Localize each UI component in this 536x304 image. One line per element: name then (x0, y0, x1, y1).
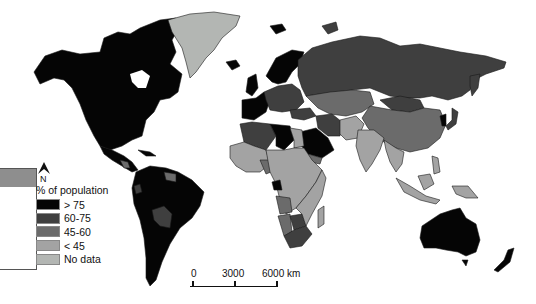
region-svalbard (270, 24, 286, 34)
legend-swatch (36, 254, 60, 265)
region-australia (420, 208, 480, 256)
scale-tick-label: 3000 (222, 268, 244, 279)
region-tasmania (462, 260, 468, 266)
legend-item: > 75 (36, 198, 108, 212)
legend-swatch (36, 226, 60, 237)
legend-item: < 45 (36, 239, 108, 253)
region-uk (246, 74, 258, 96)
legend-label: 60-75 (64, 212, 91, 224)
region-greenland (168, 12, 240, 78)
legend-swatch (36, 199, 60, 210)
side-panel-partial (0, 168, 37, 270)
region-novaya-zemlya (322, 22, 338, 34)
legend-label: No data (64, 253, 101, 265)
region-caribbean (138, 150, 156, 156)
region-turkey (290, 108, 316, 120)
legend-item: No data (36, 252, 108, 266)
region-central-europe (264, 84, 304, 112)
region-gabon (272, 180, 282, 190)
scale-tick-label: 0 (191, 268, 197, 279)
region-north-america (34, 18, 182, 150)
region-new-zealand (494, 248, 514, 272)
region-kamchatka (470, 74, 480, 96)
legend-item: 45-60 (36, 225, 108, 239)
north-label: N (40, 174, 47, 184)
region-iceland (226, 60, 240, 70)
scale-tick-label: 6000 km (262, 268, 300, 279)
legend-label: 45-60 (64, 226, 91, 238)
region-philippines (432, 156, 440, 174)
region-central-america (100, 146, 138, 172)
legend-title: % of population (36, 184, 108, 196)
region-japan (446, 108, 458, 130)
region-india (356, 130, 384, 172)
legend: % of population > 75 60-75 45-60 < 45 No… (36, 184, 108, 266)
region-madagascar (318, 206, 324, 228)
legend-label: < 45 (64, 240, 85, 252)
region-papua (452, 186, 478, 198)
legend-item: 60-75 (36, 212, 108, 226)
side-panel-header (0, 169, 36, 187)
legend-swatch (36, 240, 60, 251)
legend-swatch (36, 213, 60, 224)
scale-bar: 0 3000 6000 km (190, 268, 276, 287)
scale-line (190, 280, 276, 287)
region-borneo (418, 174, 434, 190)
region-angola (276, 196, 292, 214)
legend-label: > 75 (64, 199, 85, 211)
